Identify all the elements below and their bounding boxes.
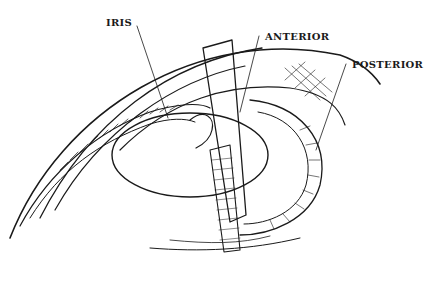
eye-diagram: IRIS ANTERIOR POSTERIOR (0, 0, 432, 287)
posterior-hatching (285, 62, 332, 100)
eye-line-drawing (0, 0, 432, 287)
inner-arc (120, 87, 345, 150)
lens-outline (112, 113, 268, 197)
outer-arc (10, 49, 380, 238)
cornea-arc-1 (40, 48, 262, 218)
iris-label: IRIS (106, 17, 132, 28)
anterior-label: ANTERIOR (265, 31, 329, 42)
posterior-label: POSTERIOR (352, 59, 423, 70)
pupil-notch (190, 115, 213, 148)
posterior-leader-line (316, 64, 346, 150)
iris-leader-line (137, 26, 168, 118)
